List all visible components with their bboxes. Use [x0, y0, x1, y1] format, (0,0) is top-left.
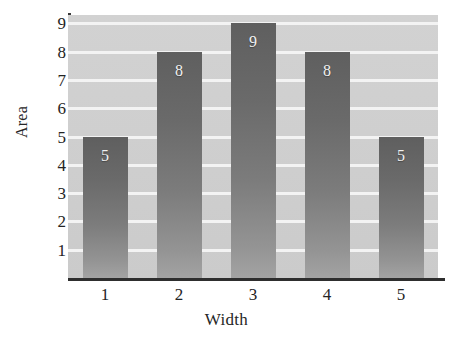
x-axis-tick-label: 3	[233, 284, 273, 306]
y-axis-tick-label: 1	[40, 241, 66, 258]
bar-value-label: 9	[231, 34, 276, 50]
x-axis-line	[68, 278, 445, 281]
y-axis-tick-label: 6	[40, 100, 66, 117]
y-axis-tick-label: 2	[40, 213, 66, 230]
y-axis-tick-label: 7	[40, 72, 66, 89]
y-axis-tick-label: 5	[40, 128, 66, 145]
plot-area: 58985	[68, 15, 438, 278]
x-axis-title: Width	[0, 310, 453, 330]
bar: 5	[379, 137, 424, 278]
x-axis-tick-labels: 12345	[68, 284, 438, 308]
plot-frame: 58985	[68, 15, 438, 278]
bar: 8	[157, 52, 202, 278]
y-axis-tick-labels: 987654321	[40, 0, 66, 342]
x-axis-tick-label: 5	[381, 284, 421, 306]
bar-value-label: 5	[83, 148, 128, 164]
y-axis-title: Area	[10, 77, 34, 167]
x-axis-tick-label: 1	[85, 284, 125, 306]
bar-chart: Area 987654321 58985 12345 Width	[0, 0, 453, 342]
bar-value-label: 5	[379, 148, 424, 164]
bar: 8	[305, 52, 350, 278]
y-axis-tick-label: 4	[40, 156, 66, 173]
bar: 9	[231, 23, 276, 278]
y-axis-tick-label: 8	[40, 43, 66, 60]
y-axis-tick-label: 3	[40, 185, 66, 202]
bar: 5	[83, 137, 128, 278]
bar-value-label: 8	[157, 63, 202, 79]
x-axis-tick-label: 2	[159, 284, 199, 306]
bar-value-label: 8	[305, 63, 350, 79]
y-axis-tick-label: 9	[40, 15, 66, 32]
x-axis-tick-label: 4	[307, 284, 347, 306]
